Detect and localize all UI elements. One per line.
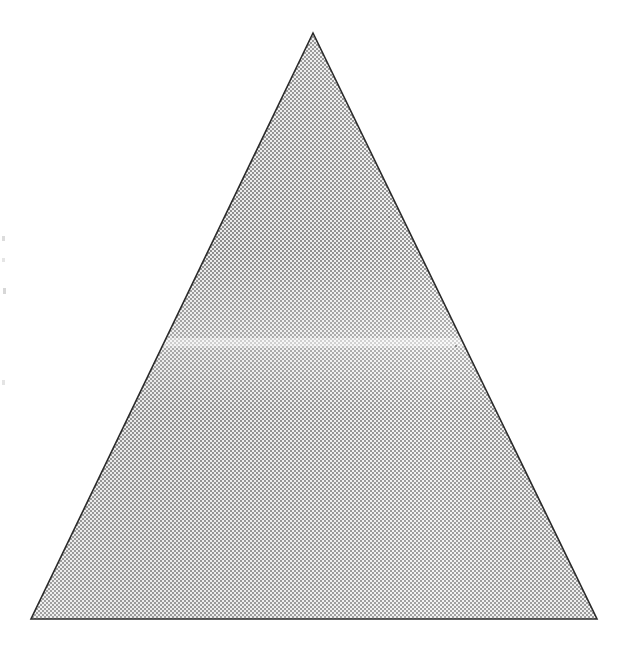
interior-speck [455, 345, 457, 347]
interior-speck [258, 478, 260, 480]
interior-speck [388, 216, 390, 218]
edge-speck [2, 380, 5, 385]
figure-page [0, 0, 626, 662]
edge-speck [3, 288, 6, 294]
edge-speck [2, 258, 5, 262]
shaded-triangle-figure [0, 0, 626, 662]
edge-speck [2, 236, 5, 241]
